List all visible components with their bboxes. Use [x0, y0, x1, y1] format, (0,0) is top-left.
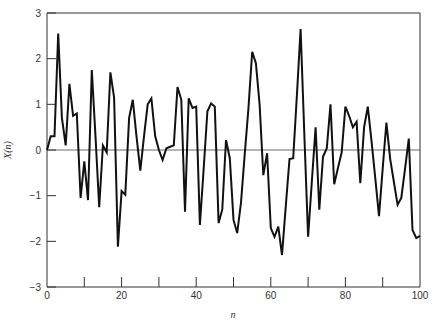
- x-axis: 020406080100: [44, 277, 429, 301]
- x-tick-label: 20: [116, 290, 128, 301]
- x-axis-label: n: [231, 309, 236, 320]
- x-tick-label: 80: [340, 290, 352, 301]
- y-tick-label: 2: [35, 53, 41, 64]
- y-tick-label: 3: [35, 8, 41, 19]
- y-tick-label: −2: [30, 236, 42, 247]
- y-tick-label: −1: [30, 190, 42, 201]
- x-tick-label: 40: [191, 290, 203, 301]
- x-tick-label: 60: [265, 290, 277, 301]
- data-series-line: [47, 29, 420, 255]
- y-tick-label: −3: [30, 282, 42, 293]
- y-tick-label: 0: [35, 145, 41, 156]
- x-tick-label: 100: [412, 290, 429, 301]
- y-axis-label: X(n): [2, 140, 14, 159]
- x-tick-label: 0: [44, 290, 50, 301]
- y-tick-label: 1: [35, 99, 41, 110]
- line-chart: −3−2−10123 020406080100 n X(n): [0, 0, 435, 325]
